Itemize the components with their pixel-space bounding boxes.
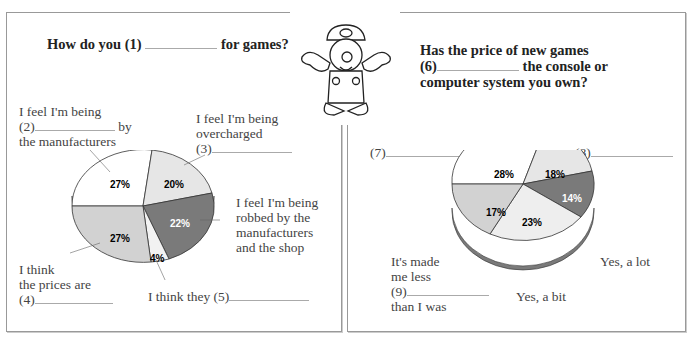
label-text: I think they (5)	[148, 289, 229, 304]
pct-label: 28%	[494, 169, 514, 180]
label-text: than I was	[391, 299, 489, 314]
pct-label: 27%	[110, 179, 130, 190]
label-text: robbed by the	[236, 210, 318, 225]
label-text: and the shop	[236, 240, 318, 255]
right-pie-chart: 28% 18% 14% 23% 17%	[450, 150, 610, 280]
label-option-5: I think they (5)	[148, 289, 309, 304]
question-text: computer system you own?	[420, 74, 608, 90]
label-yes-a-bit: Yes, a bit	[516, 289, 566, 304]
right-question: Has the price of new games (6) the conso…	[420, 42, 608, 90]
question-text: for games?	[221, 36, 289, 52]
pct-label: 17%	[486, 207, 506, 218]
mario-character-illustration	[290, 5, 400, 125]
pct-label: 14%	[562, 193, 582, 204]
label-text: manufacturers	[236, 225, 318, 240]
slice-27-top	[72, 150, 152, 206]
blank-5[interactable]	[229, 290, 309, 301]
label-text: by	[118, 119, 132, 134]
label-option-2: I feel I'm being (2) by the manufacturer…	[19, 104, 132, 149]
label-text: (4)	[19, 292, 35, 307]
pct-label: 20%	[164, 179, 184, 190]
pct-label: 27%	[110, 233, 130, 244]
left-question: How do you (1) for games?	[47, 36, 289, 52]
label-text: (9)	[391, 284, 407, 299]
question-text: the console or	[523, 58, 608, 74]
label-text: (7)	[370, 145, 386, 160]
label-text: overcharged	[196, 126, 292, 141]
blank-2[interactable]	[35, 120, 115, 131]
blank-4[interactable]	[35, 293, 113, 304]
question-text: How do you (1)	[47, 36, 142, 52]
blank-3[interactable]	[212, 142, 292, 153]
blank-1[interactable]	[145, 38, 217, 49]
label-text: I feel I'm being	[19, 104, 132, 119]
label-option-robbed: I feel I'm being robbed by the manufactu…	[236, 195, 318, 255]
question-text: Has the price of new games	[420, 42, 608, 58]
label-text: I feel I'm being	[196, 111, 292, 126]
left-pie-chart: 27% 20% 22% 4% 27%	[60, 150, 220, 280]
pct-label: 22%	[170, 218, 190, 229]
mario-icon	[290, 5, 400, 125]
label-text: the manufacturers	[19, 134, 132, 149]
label-text: I feel I'm being	[236, 195, 318, 210]
label-text: (2)	[19, 119, 35, 134]
blank-9[interactable]	[407, 285, 489, 296]
pct-label: 18%	[545, 169, 565, 180]
pct-label: 23%	[522, 217, 542, 228]
blank-6[interactable]	[437, 60, 519, 71]
question-text: (6)	[420, 58, 437, 74]
